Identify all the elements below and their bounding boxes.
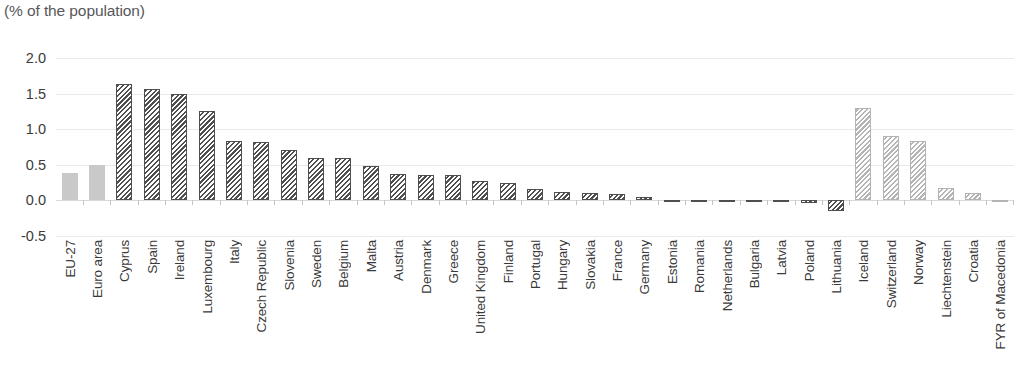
bar[interactable] bbox=[883, 136, 899, 201]
x-axis-label: Cyprus bbox=[117, 240, 132, 282]
x-axis-label: United Kingdom bbox=[473, 240, 488, 334]
bar-slot bbox=[905, 58, 932, 236]
x-axis-label: Portugal bbox=[528, 240, 543, 289]
bar-slot bbox=[275, 58, 302, 236]
bar-slot bbox=[686, 58, 713, 236]
bar-slot bbox=[987, 58, 1014, 236]
bar[interactable] bbox=[500, 183, 516, 201]
x-axis-label: Iceland bbox=[856, 240, 871, 282]
bar[interactable] bbox=[746, 200, 762, 202]
bar[interactable] bbox=[226, 141, 242, 201]
bar-slot bbox=[549, 58, 576, 236]
bar-slot bbox=[56, 58, 83, 236]
bar-slot bbox=[220, 58, 247, 236]
bar-slot bbox=[631, 58, 658, 236]
bar-slot bbox=[576, 58, 603, 236]
bar[interactable] bbox=[445, 175, 461, 200]
x-axis-label: Switzerland bbox=[884, 240, 899, 308]
bar[interactable] bbox=[253, 142, 269, 200]
bar-slot bbox=[384, 58, 411, 236]
bar[interactable] bbox=[582, 193, 598, 201]
bar-slot bbox=[959, 58, 986, 236]
bar-slot bbox=[111, 58, 138, 236]
bar-slot bbox=[248, 58, 275, 236]
bar-slot bbox=[357, 58, 384, 236]
bar[interactable] bbox=[418, 175, 434, 201]
bar-series bbox=[56, 58, 1014, 236]
x-axis-label: Latvia bbox=[774, 240, 789, 275]
bar[interactable] bbox=[855, 108, 871, 201]
bar[interactable] bbox=[363, 166, 379, 201]
bar[interactable] bbox=[910, 141, 926, 201]
x-axis-label: Poland bbox=[802, 240, 817, 281]
bar-slot bbox=[850, 58, 877, 236]
y-axis-tick-label: 1.5 bbox=[26, 86, 46, 102]
x-axis-label: Sweden bbox=[309, 240, 324, 288]
bar-slot bbox=[795, 58, 822, 236]
x-axis-label: FYR of Macedonia bbox=[993, 240, 1008, 349]
bar[interactable] bbox=[801, 200, 817, 202]
bar[interactable] bbox=[116, 84, 132, 200]
bar[interactable] bbox=[828, 200, 844, 211]
y-axis-tick-label: 2.0 bbox=[26, 50, 46, 66]
x-axis-label: Italy bbox=[227, 240, 242, 264]
bar[interactable] bbox=[609, 194, 625, 200]
bar[interactable] bbox=[691, 200, 707, 202]
bar-slot bbox=[740, 58, 767, 236]
bar-slot bbox=[713, 58, 740, 236]
y-axis-tick-label: -0.5 bbox=[21, 228, 46, 244]
x-axis-labels: EU-27Euro areaCyprusSpainIrelandLuxembou… bbox=[56, 240, 1014, 384]
bar-slot bbox=[521, 58, 548, 236]
x-axis-label: Hungary bbox=[555, 240, 570, 290]
bar[interactable] bbox=[636, 197, 652, 201]
bar[interactable] bbox=[335, 158, 351, 200]
bar-slot bbox=[412, 58, 439, 236]
plot-area bbox=[56, 58, 1014, 236]
x-axis-label: Ireland bbox=[172, 240, 187, 280]
x-axis-label: EU-27 bbox=[63, 240, 78, 278]
bar-slot bbox=[467, 58, 494, 236]
x-axis-label: Croatia bbox=[966, 240, 981, 282]
x-axis-label: Liechtenstein bbox=[939, 240, 954, 318]
bar-slot bbox=[439, 58, 466, 236]
x-axis-label: Malta bbox=[364, 240, 379, 272]
bar[interactable] bbox=[390, 174, 406, 200]
bar[interactable] bbox=[664, 200, 680, 202]
bar-slot bbox=[877, 58, 904, 236]
bar[interactable] bbox=[938, 188, 954, 201]
bar[interactable] bbox=[527, 189, 543, 200]
bar-slot bbox=[658, 58, 685, 236]
bar-slot bbox=[494, 58, 521, 236]
x-axis-label: Slovakia bbox=[583, 240, 598, 290]
bar-slot bbox=[768, 58, 795, 236]
bar[interactable] bbox=[281, 150, 297, 201]
x-axis-label: Greece bbox=[446, 240, 461, 283]
bar[interactable] bbox=[171, 94, 187, 201]
y-axis-tick-label: 1.0 bbox=[26, 121, 46, 137]
bar[interactable] bbox=[199, 111, 215, 201]
chart-page: (% of the population) 2.01.51.00.50.0-0.… bbox=[0, 0, 1019, 384]
x-axis-label: Norway bbox=[911, 240, 926, 285]
bar[interactable] bbox=[308, 158, 324, 201]
gridline bbox=[56, 236, 1014, 237]
x-axis-label: Lithuania bbox=[829, 240, 844, 293]
bar[interactable] bbox=[89, 165, 105, 201]
bar-slot bbox=[83, 58, 110, 236]
x-axis-label: Finland bbox=[501, 240, 516, 283]
y-axis-tick-label: 0.0 bbox=[26, 192, 46, 208]
bar[interactable] bbox=[773, 200, 789, 202]
bar-slot bbox=[138, 58, 165, 236]
bar[interactable] bbox=[472, 181, 488, 200]
bar-slot bbox=[603, 58, 630, 236]
x-axis-label: Euro area bbox=[90, 240, 105, 298]
bar[interactable] bbox=[719, 200, 735, 202]
bar[interactable] bbox=[554, 192, 570, 201]
x-axis-label: Denmark bbox=[419, 240, 434, 294]
bar[interactable] bbox=[992, 200, 1008, 202]
x-axis-label: Estonia bbox=[665, 240, 680, 284]
bar[interactable] bbox=[144, 89, 160, 201]
bar[interactable] bbox=[62, 173, 78, 201]
bar[interactable] bbox=[965, 193, 981, 201]
y-axis-tick-label: 0.5 bbox=[26, 157, 46, 173]
x-axis-tick bbox=[1013, 200, 1014, 205]
